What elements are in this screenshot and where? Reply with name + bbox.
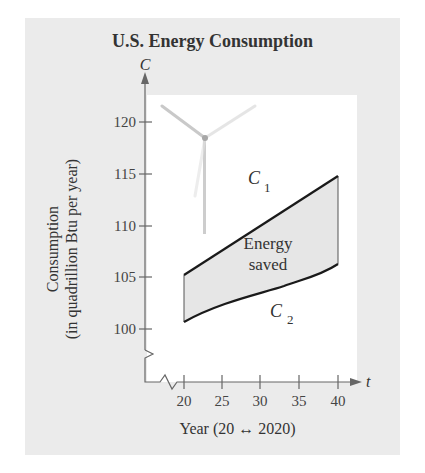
c1-subscript: 1 (264, 180, 271, 195)
x-tick-labels: 20 25 30 35 40 (177, 393, 346, 409)
c2-label: C (270, 301, 283, 321)
svg-text:105: 105 (114, 269, 137, 285)
y-axis-arrow-icon (141, 72, 149, 84)
region-label-line2: saved (249, 255, 288, 274)
svg-text:20: 20 (177, 393, 192, 409)
svg-text:120: 120 (114, 114, 137, 130)
svg-text:30: 30 (253, 393, 268, 409)
svg-text:115: 115 (114, 166, 136, 182)
x-axis-label: Year (20 ↔ 2020) (0, 420, 425, 438)
svg-text:25: 25 (215, 393, 230, 409)
y-tick-labels: 120 115 110 105 100 (114, 114, 137, 337)
c2-subscript: 2 (287, 312, 294, 327)
svg-text:110: 110 (114, 218, 136, 234)
y-axis-label-line2: (in quadrillion Btu per year) (62, 129, 81, 369)
y-axis-label: Consumption (in quadrillion Btu per year… (43, 129, 81, 369)
svg-text:40: 40 (331, 393, 346, 409)
y-axis-label-line1: Consumption (43, 129, 62, 369)
c1-label: C (248, 168, 261, 188)
svg-text:35: 35 (292, 393, 307, 409)
y-axis-var: C (140, 56, 151, 73)
x-axis-var: t (366, 373, 371, 390)
region-label-line1: Energy (244, 234, 293, 253)
svg-text:100: 100 (114, 321, 137, 337)
